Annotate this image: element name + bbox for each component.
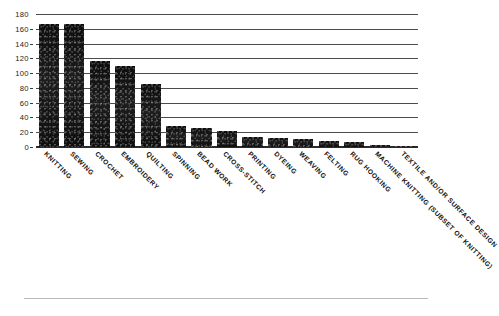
y-axis-tick-mark bbox=[30, 44, 33, 45]
y-axis: 020406080100120140160180 bbox=[0, 14, 33, 147]
bar bbox=[293, 139, 313, 147]
y-axis-tick-mark bbox=[30, 132, 33, 133]
x-axis-tick-label: MACHINE KNITTING (SUBSET OF KNITTING) bbox=[374, 150, 494, 270]
x-axis-tick-label: TEXTILE AND/OR SURFACE DESIGN bbox=[400, 150, 499, 249]
bar bbox=[268, 138, 288, 147]
y-axis-tick-mark bbox=[30, 58, 33, 59]
y-axis-tick-label: 160 bbox=[15, 24, 29, 33]
gridline bbox=[36, 29, 418, 30]
y-axis-tick-mark bbox=[30, 103, 33, 104]
y-axis-tick-label: 20 bbox=[20, 128, 29, 137]
gridline bbox=[36, 44, 418, 45]
gridline bbox=[36, 14, 418, 15]
y-axis-tick-mark bbox=[30, 117, 33, 118]
y-axis-tick-label: 180 bbox=[15, 10, 29, 19]
y-axis-tick-label: 60 bbox=[20, 98, 29, 107]
bar bbox=[90, 61, 110, 147]
x-axis-tick-label: CROSS-STITCH bbox=[222, 150, 267, 195]
bar bbox=[191, 128, 211, 147]
bar bbox=[166, 126, 186, 147]
x-axis-tick-label: SEWING bbox=[69, 150, 95, 176]
bar bbox=[217, 131, 237, 147]
y-axis-tick-mark bbox=[30, 147, 33, 148]
plot-area bbox=[36, 14, 418, 147]
x-axis-tick-label: FELTING bbox=[324, 150, 352, 178]
y-axis-tick-mark bbox=[30, 29, 33, 30]
y-axis-tick-label: 140 bbox=[15, 39, 29, 48]
y-axis-tick-label: 100 bbox=[15, 69, 29, 78]
y-axis-tick-label: 0 bbox=[24, 143, 29, 152]
y-axis-tick-label: 120 bbox=[15, 54, 29, 63]
y-axis-tick-mark bbox=[30, 88, 33, 89]
gridline bbox=[36, 58, 418, 59]
x-axis-labels: KNITTINGSEWINGCROCHETEMBROIDERYQUILTINGS… bbox=[36, 147, 418, 297]
y-axis-tick-label: 80 bbox=[20, 83, 29, 92]
y-axis-tick-label: 40 bbox=[20, 113, 29, 122]
footer-divider bbox=[24, 298, 428, 299]
bar bbox=[39, 24, 59, 147]
y-axis-tick-mark bbox=[30, 73, 33, 74]
bar bbox=[115, 66, 135, 147]
bar bbox=[141, 84, 161, 147]
bar bbox=[242, 137, 262, 147]
x-axis-tick-label: DYEING bbox=[273, 150, 298, 175]
bar bbox=[64, 24, 84, 147]
